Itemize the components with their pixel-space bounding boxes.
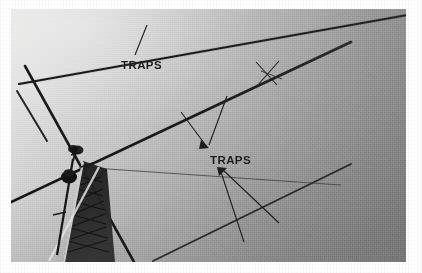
- antenna-photograph: TRAPS TRAPS: [11, 9, 406, 262]
- antenna-line-art: [11, 9, 406, 262]
- annotation-label-traps-upper: TRAPS: [121, 59, 162, 71]
- middle-boom-element: [11, 42, 351, 205]
- element-crossing-junction: [71, 146, 84, 155]
- leader-line-traps-upper: [135, 25, 147, 55]
- lower-guy-element: [79, 167, 341, 185]
- scanned-page: TRAPS TRAPS: [0, 0, 422, 273]
- annotation-label-traps-lower: TRAPS: [210, 154, 251, 166]
- tower-assembly: [49, 145, 115, 262]
- upper-element: [19, 14, 406, 84]
